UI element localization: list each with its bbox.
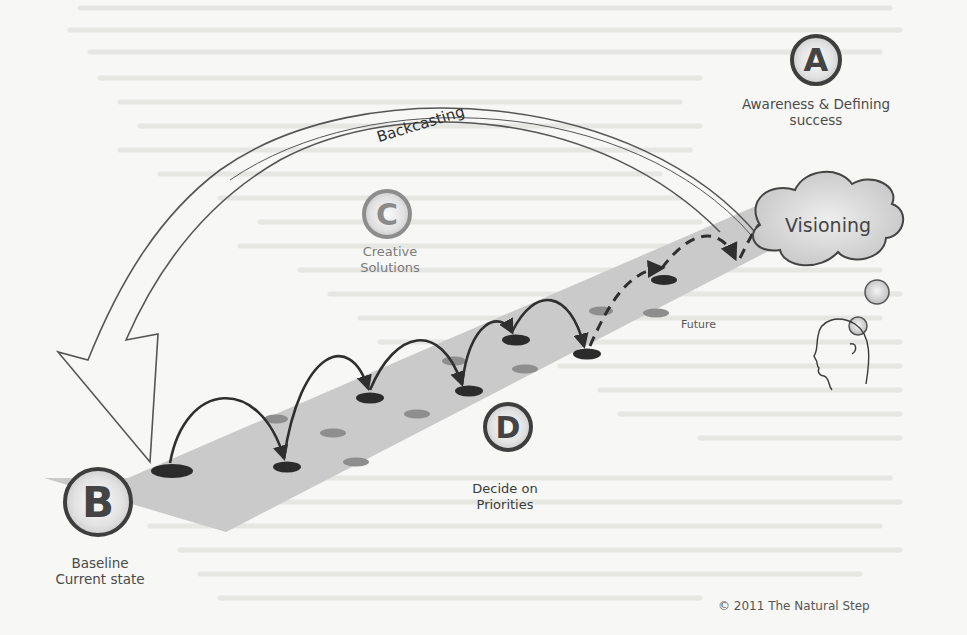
step-a-label: Awareness & Defining success	[720, 96, 912, 129]
backcasting-diagram: Backcasting A Awareness & Defining succe…	[0, 0, 967, 635]
step-c-label: Creative Solutions	[340, 244, 440, 276]
step-b-letter: B	[82, 478, 114, 527]
head-profile-icon	[814, 319, 869, 390]
visioning-label: Visioning	[768, 214, 888, 237]
step-d-badge: D	[483, 402, 533, 452]
copyright-notice: © 2011 The Natural Step	[718, 599, 870, 614]
step-a-letter: A	[804, 41, 829, 79]
step-d-label: Decide on Priorities	[446, 481, 564, 513]
step-c-letter: C	[376, 197, 398, 232]
future-label: Future	[681, 318, 716, 331]
step-a-badge: A	[790, 34, 842, 86]
step-d-letter: D	[496, 410, 521, 445]
step-b-label: Baseline Current state	[30, 555, 170, 588]
step-c-badge: C	[362, 189, 412, 239]
visioning-cloud	[753, 172, 903, 335]
step-b-badge: B	[63, 467, 133, 537]
